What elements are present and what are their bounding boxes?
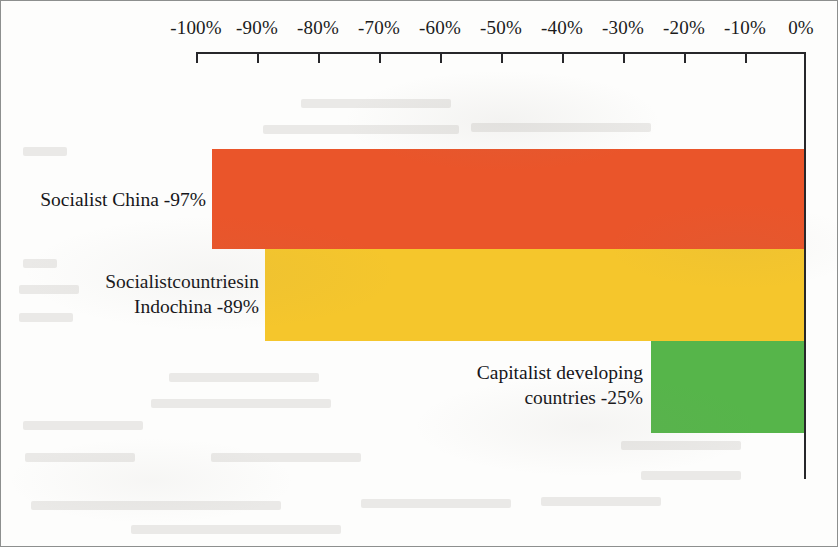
x-axis-tick-label: -60%	[419, 17, 461, 39]
bar-socialist-countries-indochina[interactable]	[265, 249, 805, 341]
zero-baseline-axis	[804, 52, 806, 479]
x-axis-tick-label: -30%	[602, 17, 644, 39]
bar-label-capitalist-developing-countries: Capitalist developing countries -25%	[441, 360, 643, 410]
bar-capitalist-developing-countries[interactable]	[651, 341, 805, 433]
bar-chart-figure: -100% -90% -80% -70% -60% -50% -40% -30%…	[0, 0, 838, 547]
bar-label-socialist-china: Socialist China -97%	[11, 187, 206, 212]
x-axis-tick-label: -40%	[541, 17, 583, 39]
x-axis-tick-label: -10%	[724, 17, 766, 39]
x-axis-tick-mark	[501, 53, 503, 63]
x-axis-tick-label: -100%	[170, 17, 222, 39]
x-axis-tick-mark	[745, 53, 747, 63]
x-axis-tick-mark	[196, 53, 198, 63]
x-axis-tick-mark	[440, 53, 442, 63]
x-axis-tick-mark	[257, 53, 259, 63]
x-axis-tick-label: -70%	[358, 17, 400, 39]
x-axis-tick-label: -20%	[663, 17, 705, 39]
x-axis-tick-mark	[623, 53, 625, 63]
x-axis-tick-label: -90%	[236, 17, 278, 39]
x-axis-tick-mark	[684, 53, 686, 63]
x-axis-tick-labels: -100% -90% -80% -70% -60% -50% -40% -30%…	[1, 17, 838, 43]
x-axis-tick-mark	[318, 53, 320, 63]
x-axis-tick-label: -80%	[297, 17, 339, 39]
bar-socialist-china[interactable]	[212, 149, 805, 249]
x-axis-tick-label: 0%	[788, 17, 814, 39]
x-axis-tick-mark	[379, 53, 381, 63]
x-axis-tick-mark	[562, 53, 564, 63]
bar-label-socialist-countries-indochina: Socialistcountriesin Indochina -89%	[61, 269, 259, 319]
x-axis-tick-label: -50%	[480, 17, 522, 39]
